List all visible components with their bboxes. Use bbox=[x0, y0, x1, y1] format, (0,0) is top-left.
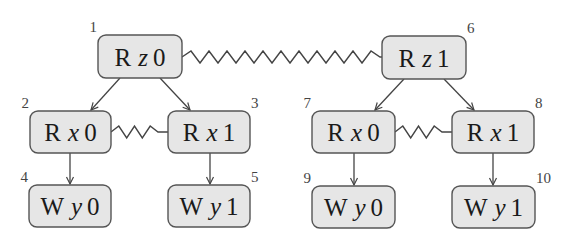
op: R bbox=[327, 119, 344, 146]
val: 0 bbox=[153, 44, 166, 71]
event-nodes: Rz01Rx02Rx13Wy04Wy15Rz16Rx07Rx18Wy09Wy11… bbox=[21, 19, 552, 228]
event-node-1: Rz01 bbox=[90, 19, 183, 78]
node-id-label: 7 bbox=[304, 95, 312, 111]
op: R bbox=[399, 45, 416, 72]
var: x bbox=[67, 119, 79, 146]
var: z bbox=[137, 44, 148, 71]
op: W bbox=[179, 193, 203, 220]
op: W bbox=[464, 194, 488, 221]
var: y bbox=[207, 193, 222, 220]
val: 1 bbox=[437, 45, 450, 72]
node-id-label: 1 bbox=[90, 19, 98, 35]
node-label: Rx0 bbox=[327, 119, 379, 146]
arrow-6-to-7 bbox=[375, 79, 404, 110]
val: 0 bbox=[367, 119, 380, 146]
node-label: Rx1 bbox=[183, 119, 235, 146]
conflict-zigzag-1-6 bbox=[182, 51, 382, 63]
val: 1 bbox=[223, 119, 236, 146]
arrow-6-to-8 bbox=[444, 79, 474, 110]
var: x bbox=[206, 119, 218, 146]
node-id-label: 3 bbox=[251, 95, 259, 111]
val: 0 bbox=[87, 193, 100, 220]
event-node-4: Wy04 bbox=[21, 169, 112, 227]
event-node-3: Rx13 bbox=[168, 95, 259, 153]
var: y bbox=[352, 194, 367, 221]
op: R bbox=[115, 44, 132, 71]
node-id-label: 9 bbox=[304, 170, 312, 186]
var: x bbox=[490, 119, 502, 146]
node-id-label: 2 bbox=[22, 95, 30, 111]
event-structure-diagram: Rz01Rx02Rx13Wy04Wy15Rz16Rx07Rx18Wy09Wy11… bbox=[0, 0, 567, 247]
node-id-label: 8 bbox=[535, 95, 543, 111]
var: y bbox=[492, 194, 507, 221]
val: 0 bbox=[84, 119, 97, 146]
node-label: Rz1 bbox=[399, 45, 450, 72]
node-label: Rx1 bbox=[467, 119, 519, 146]
op: R bbox=[183, 119, 200, 146]
val: 1 bbox=[511, 194, 524, 221]
op: W bbox=[324, 194, 348, 221]
node-label: Rz0 bbox=[115, 44, 166, 71]
node-id-label: 4 bbox=[21, 169, 29, 185]
var: z bbox=[421, 45, 432, 72]
event-node-5: Wy15 bbox=[168, 169, 259, 227]
var: x bbox=[350, 119, 362, 146]
event-node-8: Rx18 bbox=[452, 95, 543, 153]
arrow-1-to-3 bbox=[160, 78, 190, 110]
conflict-zigzag-7-8 bbox=[395, 126, 452, 138]
val: 1 bbox=[507, 119, 520, 146]
node-label: Rx0 bbox=[44, 119, 96, 146]
node-id-label: 10 bbox=[536, 170, 551, 186]
event-node-10: Wy110 bbox=[452, 170, 551, 228]
node-id-label: 6 bbox=[467, 20, 475, 36]
op: R bbox=[467, 119, 484, 146]
conflict-zigzag-2-3 bbox=[111, 126, 168, 138]
event-node-6: Rz16 bbox=[382, 20, 475, 79]
val: 0 bbox=[371, 194, 384, 221]
event-node-9: Wy09 bbox=[304, 170, 396, 228]
op: R bbox=[44, 119, 61, 146]
val: 1 bbox=[226, 193, 239, 220]
causality-edges bbox=[70, 78, 493, 185]
node-id-label: 5 bbox=[251, 169, 259, 185]
op: W bbox=[40, 193, 64, 220]
arrow-1-to-2 bbox=[91, 78, 120, 110]
var: y bbox=[68, 193, 83, 220]
